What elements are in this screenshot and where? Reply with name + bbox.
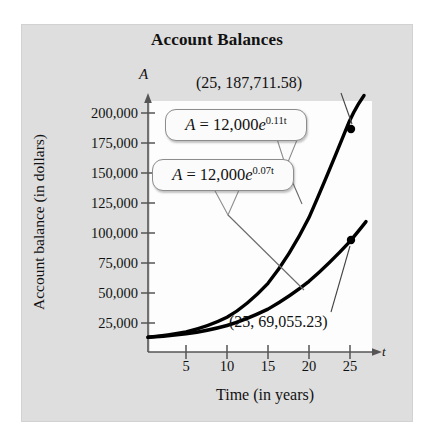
x-axis-arrowhead [372, 348, 382, 356]
annotation-point-lower: (25, 69,055.23) [229, 313, 328, 331]
data-point-marker-187711 [347, 125, 355, 133]
leader-line-annotation-top [341, 93, 352, 124]
data-point-marker-69055 [347, 236, 355, 244]
callout-equation-rate-0-07: A = 12,000e0.07t [152, 159, 294, 191]
callout-tail-rate-0-07 [214, 189, 239, 215]
equation-lhs-0-11: A [185, 115, 195, 134]
equation-coefficient-0-11: 12,000 [213, 115, 258, 134]
leader-line-callout-rate-0-07 [228, 215, 304, 290]
equation-sign-0-11: = [195, 115, 213, 134]
chart-svg [0, 0, 434, 442]
equation-coefficient-0-07: 12,000 [200, 165, 245, 184]
equation-base-0-11: e [258, 115, 265, 134]
annotation-point-upper: (25, 187,711.58) [196, 74, 302, 92]
callout-equation-rate-0-11: A = 12,000e0.11t [165, 109, 307, 141]
equation-text-rate-0-11: A = 12,000e0.11t [185, 115, 286, 135]
equation-exponent-0-11: 0.11t [266, 115, 287, 126]
figure-container: Account Balances Account balance (in dol… [0, 0, 434, 442]
equation-exponent-0-07: 0.07t [253, 165, 274, 176]
equation-sign-0-07: = [182, 165, 200, 184]
equation-base-0-07: e [245, 165, 252, 184]
y-axis-arrowhead [144, 93, 152, 103]
equation-lhs-0-07: A [172, 165, 182, 184]
equation-text-rate-0-07: A = 12,000e0.07t [172, 165, 274, 185]
